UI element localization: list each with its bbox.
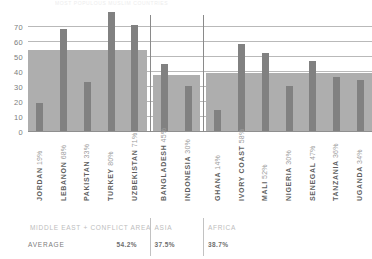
bar	[262, 53, 269, 131]
y-tick-label-40: 40	[14, 68, 23, 77]
category-value: 30%	[285, 150, 292, 167]
group-average-value: 37.5%	[155, 241, 175, 248]
bar	[333, 77, 340, 131]
y-axis: 010203040506070	[0, 20, 26, 132]
bar	[238, 44, 245, 131]
average-row-label: AVERAGE	[28, 241, 65, 248]
category-name: IVORY COAST	[238, 145, 245, 201]
y-tick-label-70: 70	[14, 23, 23, 32]
y-tick-label-60: 60	[14, 38, 23, 47]
category-name: UZBEKISTAN	[131, 149, 138, 201]
gridline-70	[28, 26, 372, 27]
gridline-60	[28, 41, 372, 42]
bar	[357, 80, 364, 131]
category-value: 33%	[83, 144, 90, 161]
group-divider	[203, 15, 204, 132]
category-name: BANGLADESH	[160, 145, 167, 201]
category-label: UGANDA 34%	[356, 149, 363, 201]
category-name: INDONESIA	[184, 156, 191, 201]
bar	[131, 25, 138, 131]
category-label: LEBANON 68%	[60, 145, 67, 201]
category-name: SENEGAL	[309, 162, 316, 201]
category-name: TURKEY	[107, 168, 114, 201]
axis-baseline	[28, 131, 372, 132]
bar	[185, 86, 192, 131]
category-value: 30%	[184, 139, 191, 156]
category-value: 58%	[238, 129, 245, 146]
category-label: NIGERIA 30%	[285, 150, 292, 201]
group-average-value: 38.7%	[208, 241, 228, 248]
category-name: JORDAN	[36, 167, 43, 201]
region-label: AFRICA	[208, 224, 236, 231]
category-label: TANZANIA 36%	[332, 143, 339, 201]
category-value: 34%	[356, 149, 363, 166]
category-value: 19%	[36, 150, 43, 167]
category-name: NIGERIA	[285, 167, 292, 201]
y-tick-label-50: 50	[14, 53, 23, 62]
category-name: GHANA	[214, 172, 221, 201]
category-value: 47%	[309, 145, 316, 162]
bar	[161, 64, 168, 131]
bar	[214, 110, 221, 131]
category-label: IVORY COAST 58%	[238, 129, 245, 201]
bar	[108, 12, 115, 131]
category-label: JORDAN 19%	[36, 150, 43, 201]
category-name: MALI	[261, 181, 268, 201]
category-value: 45%	[160, 128, 167, 145]
bar	[286, 86, 293, 131]
category-label: INDONESIA 30%	[184, 139, 191, 201]
category-label: BANGLADESH 45%	[160, 128, 167, 201]
region-label: ASIA	[155, 224, 173, 231]
bar	[84, 82, 91, 131]
y-tick-label-0: 0	[19, 128, 23, 137]
category-value: 36%	[332, 143, 339, 160]
category-value: 71%	[131, 133, 138, 150]
chart-figure: MOST POPULOUS MUSLIM COUNTRIES 010203040…	[0, 0, 372, 259]
category-name: PAKISTAN	[83, 161, 90, 201]
category-label: GHANA 14%	[214, 155, 221, 201]
group-average-band	[153, 75, 200, 131]
bar	[36, 103, 43, 131]
category-label: MALI 52%	[261, 164, 268, 201]
category-name: TANZANIA	[332, 160, 339, 201]
plot-area	[28, 20, 372, 132]
category-label: SENEGAL 47%	[309, 145, 316, 201]
category-label: TURKEY 80%	[107, 151, 114, 201]
category-value: 52%	[261, 164, 268, 181]
group-divider	[150, 15, 151, 132]
category-name: LEBANON	[60, 161, 67, 201]
y-tick-label-20: 20	[14, 98, 23, 107]
category-axis-labels: JORDAN 19%LEBANON 68%PAKISTAN 33%TURKEY …	[28, 133, 372, 201]
bar	[60, 29, 67, 131]
category-label: UZBEKISTAN 71%	[131, 133, 138, 201]
category-value: 68%	[60, 145, 67, 162]
chart-title: MOST POPULOUS MUSLIM COUNTRIES	[55, 0, 185, 8]
region-label: MIDDLE EAST + CONFLICT AREA	[30, 224, 151, 231]
y-tick-label-10: 10	[14, 113, 23, 122]
category-name: UGANDA	[356, 166, 363, 201]
category-label: PAKISTAN 33%	[83, 144, 90, 201]
y-tick-label-30: 30	[14, 83, 23, 92]
footer-divider	[203, 218, 204, 256]
bar	[309, 61, 316, 131]
category-value: 14%	[214, 155, 221, 172]
category-value: 80%	[107, 151, 114, 168]
group-average-value: 54.2%	[117, 241, 137, 248]
